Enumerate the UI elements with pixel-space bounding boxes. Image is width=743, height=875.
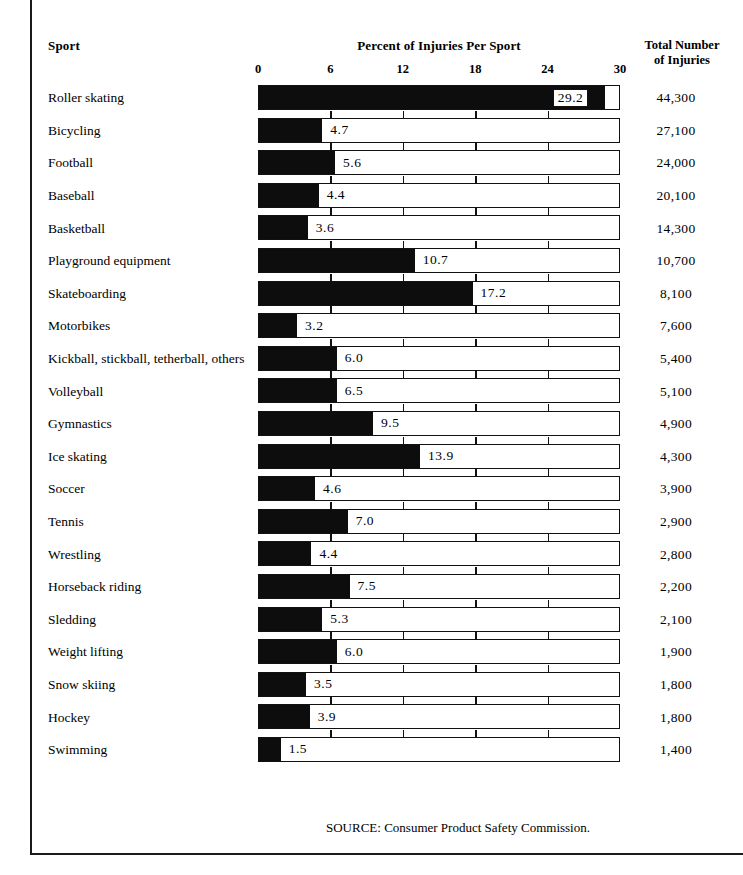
bar-frame: 3.2 [258,313,620,338]
total-injuries-value: 24,000 [624,155,728,171]
sport-label: Snow skiing [48,677,115,693]
sport-label: Roller skating [48,90,124,106]
bar-fill [259,705,310,728]
total-injuries-value: 1,900 [624,644,728,660]
sport-label: Wrestling [48,547,101,563]
bar-frame: 10.7 [258,248,620,273]
bar-value-label: 5.3 [330,611,348,627]
sport-label: Soccer [48,481,85,497]
total-injuries-value: 14,300 [624,221,728,237]
x-axis-tick-12: 12 [397,62,410,77]
bar-fill [259,510,348,533]
bar-value-label: 10.7 [423,252,449,268]
bar-frame: 7.0 [258,509,620,534]
bar-value-label: 17.2 [481,285,507,301]
bar-fill [259,477,315,500]
chart-row: Football5.624,000 [0,147,743,180]
column-header-total-injuries: Total Number of Injuries [624,38,740,68]
chart-row: Swimming1.51,400 [0,734,743,767]
bar-value-label: 3.2 [305,318,323,334]
chart-row: Gymnastics9.54,900 [0,408,743,441]
sport-label: Motorbikes [48,318,110,334]
bar-frame: 4.7 [258,118,620,143]
bar-value-label: 3.9 [318,709,336,725]
sport-label: Basketball [48,221,105,237]
total-injuries-value: 5,100 [624,384,728,400]
chart-row: Horseback riding7.52,200 [0,571,743,604]
chart-title: Percent of Injuries Per Sport [258,38,620,54]
bar-fill [259,379,337,402]
chart-row: Tennis7.02,900 [0,506,743,539]
bar-frame: 6.0 [258,346,620,371]
sport-label: Hockey [48,710,90,726]
bar-value-label: 1.5 [289,741,307,757]
total-injuries-value: 27,100 [624,123,728,139]
total-injuries-value: 3,900 [624,481,728,497]
sport-label: Skateboarding [48,286,126,302]
chart-row: Sledding5.32,100 [0,604,743,637]
x-axis-tick-0: 0 [255,62,261,77]
total-injuries-value: 5,400 [624,351,728,367]
column-header-sport: Sport [48,38,80,54]
bar-value-label: 9.5 [381,415,399,431]
total-injuries-value: 2,800 [624,547,728,563]
bar-value-label: 4.4 [319,546,337,562]
x-axis-tick-30: 30 [614,62,627,77]
bar-fill [259,151,335,174]
total-injuries-value: 1,800 [624,710,728,726]
x-axis-tick-24: 24 [541,62,554,77]
sport-label: Swimming [48,742,107,758]
sport-label: Playground equipment [48,253,171,269]
bar-value-label: 4.6 [323,481,341,497]
chart-row: Hockey3.91,800 [0,701,743,734]
sport-label: Baseball [48,188,95,204]
bar-value-label: 3.6 [316,220,334,236]
chart-row: Motorbikes3.27,600 [0,310,743,343]
source-note: SOURCE: Consumer Product Safety Commissi… [258,820,658,836]
bar-value-label: 3.5 [314,676,332,692]
chart-row: Roller skating29.244,300 [0,82,743,115]
chart-row: Ice skating13.94,300 [0,441,743,474]
bar-value-label: 5.6 [343,155,361,171]
bar-frame: 4.6 [258,476,620,501]
chart-row: Baseball4.420,100 [0,180,743,213]
bar-frame: 6.0 [258,639,620,664]
bar-frame: 13.9 [258,444,620,469]
bar-frame: 7.5 [258,574,620,599]
bar-frame: 6.5 [258,378,620,403]
total-injuries-value: 4,300 [624,449,728,465]
bar-value-label: 4.7 [330,122,348,138]
column-header-total-line2: of Injuries [624,53,740,68]
bar-frame: 1.5 [258,737,620,762]
bar-frame: 17.2 [258,281,620,306]
bar-fill [259,347,337,370]
bar-fill [259,445,420,468]
bar-fill [259,608,322,631]
bar-fill [259,542,311,565]
bar-fill [259,249,415,272]
bar-value-label: 6.0 [345,350,363,366]
bar-value-label: 29.2 [553,89,589,107]
chart-row: Volleyball6.55,100 [0,375,743,408]
sport-label: Gymnastics [48,416,112,432]
total-injuries-value: 7,600 [624,318,728,334]
total-injuries-value: 4,900 [624,416,728,432]
chart-row: Weight lifting6.01,900 [0,636,743,669]
total-injuries-value: 20,100 [624,188,728,204]
sport-label: Volleyball [48,384,103,400]
sport-label: Ice skating [48,449,107,465]
chart-row: Bicycling4.727,100 [0,115,743,148]
chart-row: Skateboarding17.28,100 [0,278,743,311]
chart-row: Snow skiing3.51,800 [0,669,743,702]
sport-label: Bicycling [48,123,101,139]
sport-label: Sledding [48,612,96,628]
x-axis-tick-18: 18 [469,62,482,77]
sport-label: Tennis [48,514,84,530]
chart-row: Soccer4.63,900 [0,473,743,506]
bar-frame: 4.4 [258,183,620,208]
chart-row: Wrestling4.42,800 [0,538,743,571]
bar-value-label: 6.5 [345,383,363,399]
bar-frame: 3.6 [258,215,620,240]
bar-fill [259,640,337,663]
bar-fill [259,412,373,435]
